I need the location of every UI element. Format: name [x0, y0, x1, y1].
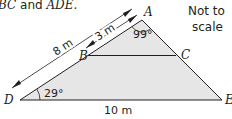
vertex-A: A — [143, 5, 153, 19]
angle-D-label: 29° — [44, 87, 64, 100]
vertex-D: D — [3, 93, 14, 107]
arrowhead-icon — [128, 15, 137, 23]
arrowhead-icon — [12, 80, 21, 88]
label-AD-length: 8 m — [51, 36, 76, 58]
note-line2: scale — [192, 20, 223, 34]
arrowhead-icon — [123, 9, 132, 17]
caption: BC and ADE. — [0, 0, 77, 12]
note-line1: Not to — [188, 4, 225, 18]
angle-A-label: 99° — [133, 28, 153, 41]
triangle-diagram: BC and ADE. 8 m 3 m 29° 99° A B C D E 10… — [0, 0, 232, 119]
arrowhead-icon — [86, 40, 95, 48]
vertex-C: C — [181, 48, 190, 62]
label-DE-length: 10 m — [104, 104, 132, 117]
vertex-E: E — [224, 93, 232, 107]
vertex-B: B — [78, 49, 88, 63]
